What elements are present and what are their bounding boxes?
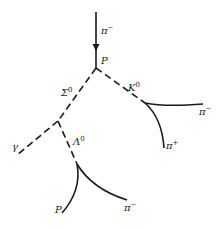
gamma-track [17,121,58,155]
incoming-pion-track [93,12,100,68]
label-lambda0: Λ0 [72,135,85,147]
label-incoming-pion: π− [100,24,114,36]
direction-arrow-icon [93,44,100,51]
lambda-pi-minus-track [77,164,127,200]
label-gamma: γ [12,141,18,152]
kaon-pi-minus-track [145,103,203,105]
kaon-pi-plus-track [145,103,164,148]
label-sigma0: Σ0 [60,86,73,98]
label-kaon-pi-minus: π− [198,105,212,117]
label-lambda-pi-minus: π− [123,201,137,213]
label-kaon-pi-plus: π+ [165,139,179,151]
label-production-proton: P [100,55,108,66]
lambda-proton-track [62,164,78,213]
label-kaon0: K0 [127,81,140,93]
particle-decay-diagram: π− P Σ0 K0 π− π+ γ Λ0 P π− [0,0,220,228]
label-lambda-proton: P [54,204,62,215]
